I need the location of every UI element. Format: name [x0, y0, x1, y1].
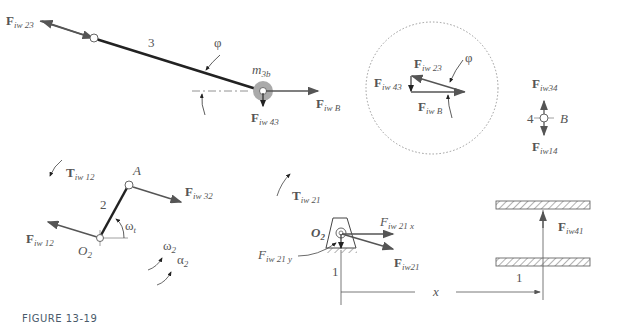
label-F-iw23: Fiw 23	[6, 13, 34, 30]
point-B-label: B	[560, 111, 568, 126]
mass-label: m3b	[252, 62, 271, 79]
link3-number: 3	[148, 35, 155, 50]
poly-label-F-iwB: Fiw B	[418, 99, 443, 116]
alpha2-label: α2	[177, 252, 189, 269]
figure-caption: FIGURE 13-19	[22, 313, 97, 324]
figure-canvas: Fiw 23 3 φ m3b Fiw B Fiw 43 φ Fiw 23 Fiw…	[0, 0, 619, 327]
pivot-O2	[97, 235, 104, 242]
omega2-label: ω2	[163, 238, 177, 255]
link3-group: Fiw 23 3 φ m3b Fiw B Fiw 43	[6, 13, 341, 127]
poly-label-F-iw23: Fiw 23	[414, 56, 442, 73]
force-polygon-group: φ Fiw 23 Fiw 43 Fiw B	[366, 22, 498, 154]
ground-pivot-label: O2	[311, 225, 325, 242]
poly-label-F-iw43: Fiw 43	[374, 75, 402, 92]
distance-x-label: x	[432, 284, 439, 299]
label-F-iw32: Fiw 32	[185, 184, 213, 201]
link4-pin	[540, 114, 548, 122]
link4-group: 4 B Fiw34 Fiw14	[527, 76, 568, 156]
label-F-iw12: Fiw 12	[26, 231, 54, 248]
phi-label: φ	[214, 35, 222, 50]
label-F-iw14: Fiw14	[532, 139, 558, 156]
label-F-iwB: Fiw B	[316, 96, 341, 113]
force-iw32-arrow	[133, 187, 181, 202]
ground-number: 1	[332, 264, 339, 279]
label-F-iw21y: Fiw 21 y	[257, 247, 292, 264]
label-F-iw41: Fiw41	[558, 219, 583, 236]
label-T-iw21: Tiw 21	[292, 188, 320, 205]
slider-guide-top	[496, 201, 590, 209]
link2-group: Tiw 12 A 2 Fiw 32 ωt Fiw 12 O2 ω2 α2	[26, 160, 213, 285]
link3-pin	[90, 34, 98, 42]
label-F-iw21: Fiw21	[394, 255, 419, 272]
ground-group: Tiw 21 O2 Fiw 21 x Fiw 21 y Fiw21 Fiw41 …	[257, 174, 590, 305]
poly-iw23-arrow	[412, 76, 465, 92]
label-F-iw43: Fiw 43	[251, 110, 279, 127]
pin-A	[125, 181, 133, 189]
angle-omega-t: ωt	[125, 218, 137, 235]
label-F-iw34: Fiw34	[532, 76, 558, 93]
force-iw12-arrow	[48, 222, 97, 237]
point-A-label: A	[132, 163, 141, 178]
poly-phi-label: φ	[465, 50, 473, 65]
slider-guide-bottom	[496, 258, 590, 266]
label-T-iw12: Tiw 12	[66, 165, 95, 182]
pivot-O2-label: O2	[78, 243, 92, 260]
link3-bar	[96, 39, 263, 91]
label-F-iw21x: Fiw 21 x	[379, 214, 414, 231]
link4-number: 4	[527, 111, 534, 126]
ground-number-2: 1	[516, 270, 523, 285]
link2-number: 2	[100, 197, 107, 212]
